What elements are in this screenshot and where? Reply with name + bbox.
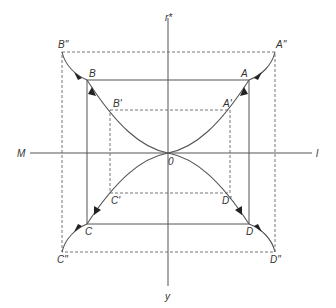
phase-diagram: r* y M l 0 A" B" C" D" A B C D A' B' C' … [0, 0, 336, 308]
axis-label-left: M [17, 148, 26, 159]
label-A: A [240, 68, 248, 79]
curve-to-C [87, 153, 168, 224]
inner-dashed-rect [110, 110, 230, 193]
axis-label-bottom: y [164, 291, 171, 302]
curve-B2-to-B [62, 52, 87, 80]
curve-A2-to-A [249, 52, 275, 80]
label-D-prime: D' [222, 195, 232, 206]
curve-to-B [87, 80, 168, 153]
arrow-icon [235, 206, 242, 215]
label-A-double-prime: A" [275, 39, 287, 50]
label-B-double-prime: B" [58, 39, 69, 50]
label-A-prime: A' [222, 98, 233, 109]
label-D-double-prime: D" [270, 254, 281, 265]
arrow-icon [254, 72, 262, 80]
axis-label-right: l [316, 148, 319, 159]
curve-to-D [168, 153, 249, 224]
arrow-icon [74, 224, 82, 232]
arrow-icon [94, 206, 101, 215]
origin-label: 0 [168, 156, 174, 167]
label-C-double-prime: C" [57, 254, 68, 265]
curve-to-A [168, 80, 249, 153]
arrow-icon [74, 72, 82, 80]
label-B-prime: B' [113, 98, 123, 109]
axis-label-top: r* [165, 12, 173, 23]
diagram-canvas: r* y M l 0 A" B" C" D" A B C D A' B' C' … [0, 0, 336, 308]
arrow-icon [254, 224, 262, 232]
label-D: D [246, 226, 253, 237]
label-C: C [85, 226, 93, 237]
label-B: B [89, 68, 96, 79]
curve-C2-to-C [62, 224, 87, 252]
label-C-prime: C' [111, 195, 121, 206]
